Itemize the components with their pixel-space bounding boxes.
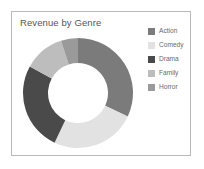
donut-chart xyxy=(16,33,140,153)
legend-swatch-icon xyxy=(148,56,155,63)
legend-swatch-icon xyxy=(148,42,155,49)
legend-item-label: Horror xyxy=(159,84,178,91)
legend-item[interactable]: Family xyxy=(148,66,192,80)
legend-swatch-icon xyxy=(148,28,155,35)
donut-slice-group xyxy=(23,38,133,148)
page-title: Revenue by Genre xyxy=(20,17,101,28)
legend-item[interactable]: Horror xyxy=(148,80,192,94)
donut-slice[interactable] xyxy=(55,106,128,148)
legend-item-label: Family xyxy=(159,70,178,77)
legend-swatch-icon xyxy=(148,70,155,77)
chart-card: Revenue by Genre ActionComedyDramaFamily… xyxy=(11,11,191,156)
legend-item-label: Action xyxy=(159,28,177,35)
legend-item[interactable]: Drama xyxy=(148,52,192,66)
legend-item-label: Drama xyxy=(159,56,179,63)
chart-legend: ActionComedyDramaFamilyHorror xyxy=(148,24,192,94)
donut-chart-svg xyxy=(16,33,140,153)
legend-item[interactable]: Action xyxy=(148,24,192,38)
donut-slice[interactable] xyxy=(23,67,65,143)
legend-item[interactable]: Comedy xyxy=(148,38,192,52)
legend-item-label: Comedy xyxy=(159,42,184,49)
donut-slice[interactable] xyxy=(78,38,133,116)
legend-swatch-icon xyxy=(148,84,155,91)
